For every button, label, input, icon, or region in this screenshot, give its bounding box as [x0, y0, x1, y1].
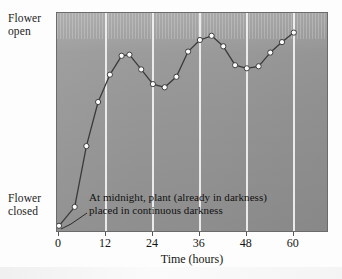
x-tick-label-0: 0: [55, 236, 61, 251]
x-tick-label-36: 36: [193, 236, 205, 251]
annotation-leader-line: [57, 13, 328, 232]
x-tick-label-12: 12: [99, 236, 111, 251]
y-axis-label-open-line2: open: [8, 25, 31, 37]
x-tick-label-48: 48: [240, 236, 252, 251]
y-axis-label-closed-line2: closed: [8, 205, 38, 217]
plot-area: At midnight, plant (already in darkness)…: [56, 12, 328, 232]
y-axis-label-open: Flower open: [8, 12, 41, 37]
y-axis-label-open-line1: Flower: [8, 12, 41, 24]
x-axis-title: Time (hours): [56, 252, 328, 267]
page-smudge: [0, 267, 342, 279]
y-axis-label-closed-line1: Flower: [8, 192, 41, 204]
x-tick-label-60: 60: [287, 236, 299, 251]
x-tick-label-24: 24: [146, 236, 158, 251]
figure-container: Flower open Flower closed At midnight, p…: [0, 0, 342, 279]
y-axis-label-closed: Flower closed: [8, 192, 41, 217]
